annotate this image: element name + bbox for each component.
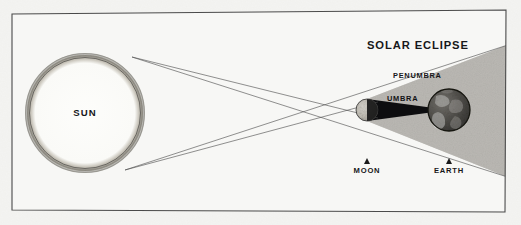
moon-body [356, 99, 378, 121]
solar-eclipse-diagram: SUN SOLAR ECLIPSE [0, 0, 521, 225]
framed-illustration: SUN SOLAR ECLIPSE [8, 6, 520, 218]
sun-body: SUN [26, 54, 145, 173]
sun-label: SUN [73, 107, 97, 118]
penumbra-label: PENUMBRA [393, 71, 442, 80]
earth-label: EARTH [434, 166, 464, 175]
diagram-title: SOLAR ECLIPSE [367, 39, 469, 51]
diagram-canvas: SUN SOLAR ECLIPSE [0, 0, 521, 225]
umbra-label: UMBRA [387, 94, 418, 103]
moon-label: MOON [354, 166, 381, 175]
earth-body [428, 88, 470, 131]
